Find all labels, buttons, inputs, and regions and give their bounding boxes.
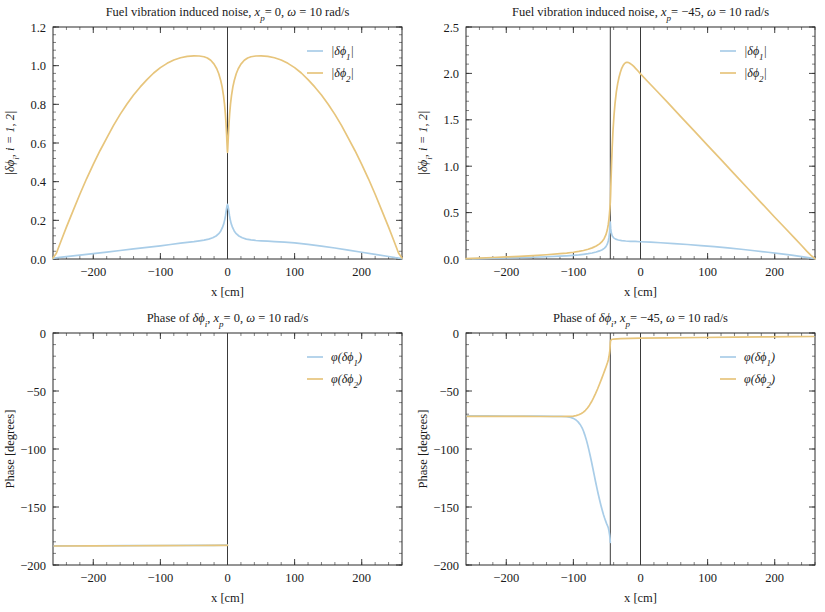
panel-bottom-right: Phase of δϕi, xp= −45, ω = 10 rad/s−200−… — [413, 306, 825, 612]
x-axis-label: x [cm] — [211, 285, 244, 299]
x-tick-label: 200 — [352, 265, 371, 279]
x-axis-label: x [cm] — [624, 591, 657, 605]
legend-label-1: φ(δϕ1) — [744, 350, 775, 368]
y-axis-label: |δϕi, i = 1, 2| — [416, 111, 434, 176]
plot-title: Phase of δϕi, xp= −45, ω = 10 rad/s — [553, 311, 728, 329]
legend-label-1: φ(δϕ1) — [331, 350, 362, 368]
y-tick-label: 0.2 — [30, 214, 46, 228]
y-tick-label: 1.2 — [30, 21, 46, 35]
panel-top-right: Fuel vibration induced noise, xp= −45, ω… — [413, 0, 825, 306]
x-tick-label: 100 — [698, 571, 717, 585]
y-tick-label: −200 — [433, 559, 459, 573]
x-tick-label: −200 — [493, 265, 519, 279]
legend-label-2: φ(δϕ2) — [744, 372, 775, 390]
plot-title: Fuel vibration induced noise, xp= −45, ω… — [512, 5, 769, 23]
x-tick-label: −200 — [493, 571, 519, 585]
y-tick-label: −50 — [439, 385, 459, 399]
legend-label-2: |δϕ2| — [744, 66, 767, 84]
plot-top-right: Fuel vibration induced noise, xp= −45, ω… — [413, 0, 825, 306]
plot-bottom-left: Phase of δϕi, xp= 0, ω = 10 rad/s−200−10… — [0, 306, 412, 612]
y-tick-label: 2.0 — [443, 67, 459, 81]
y-tick-label: 0.5 — [443, 206, 459, 220]
x-tick-label: −100 — [560, 265, 586, 279]
x-tick-label: −100 — [147, 265, 173, 279]
y-tick-label: 0 — [453, 327, 459, 341]
x-tick-label: 200 — [765, 265, 784, 279]
y-tick-label: 1.0 — [30, 59, 46, 73]
series-curve-2 — [54, 545, 227, 546]
x-tick-label: −100 — [560, 571, 586, 585]
x-tick-label: 100 — [285, 265, 304, 279]
x-axis-label: x [cm] — [624, 285, 657, 299]
figure-four-panel-plot-grid: Fuel vibration induced noise, xp= 0, ω =… — [0, 0, 825, 612]
x-tick-label: −100 — [147, 571, 173, 585]
plot-title: Phase of δϕi, xp= 0, ω = 10 rad/s — [147, 311, 309, 329]
y-tick-label: −150 — [433, 501, 459, 515]
legend-label-2: |δϕ2| — [331, 66, 354, 84]
y-tick-label: 1.5 — [443, 113, 459, 127]
plot-title: Fuel vibration induced noise, xp= 0, ω =… — [106, 5, 350, 23]
legend-label-2: φ(δϕ2) — [331, 372, 362, 390]
y-tick-label: 0 — [40, 327, 46, 341]
y-tick-label: 1.0 — [443, 160, 459, 174]
x-tick-label: 200 — [352, 571, 371, 585]
series-curve-1 — [467, 416, 610, 542]
legend-label-1: |δϕ1| — [331, 44, 354, 62]
x-tick-label: 100 — [285, 571, 304, 585]
y-tick-label: 0.0 — [443, 253, 459, 267]
panel-bottom-left: Phase of δϕi, xp= 0, ω = 10 rad/s−200−10… — [0, 306, 412, 612]
y-tick-label: −200 — [20, 559, 46, 573]
plot-bottom-right: Phase of δϕi, xp= −45, ω = 10 rad/s−200−… — [413, 306, 825, 612]
panel-top-left: Fuel vibration induced noise, xp= 0, ω =… — [0, 0, 412, 306]
y-tick-label: 0.4 — [30, 175, 46, 189]
x-tick-label: 200 — [765, 571, 784, 585]
y-tick-label: −100 — [433, 443, 459, 457]
y-axis-label: Phase [degrees] — [416, 410, 430, 489]
y-tick-label: 0.0 — [30, 253, 46, 267]
y-tick-label: −100 — [20, 443, 46, 457]
y-axis-label: Phase [degrees] — [3, 410, 17, 489]
x-tick-label: 100 — [698, 265, 717, 279]
x-tick-label: 0 — [224, 265, 230, 279]
y-axis-label: |δϕi, i = 1, 2| — [3, 111, 21, 176]
x-tick-label: −200 — [80, 265, 106, 279]
x-axis-label: x [cm] — [211, 591, 244, 605]
plot-top-left: Fuel vibration induced noise, xp= 0, ω =… — [0, 0, 412, 306]
x-tick-label: 0 — [637, 571, 643, 585]
x-tick-label: 0 — [637, 265, 643, 279]
x-tick-label: 0 — [224, 571, 230, 585]
y-tick-label: 0.8 — [30, 98, 46, 112]
y-tick-label: −50 — [26, 385, 46, 399]
y-tick-label: 0.6 — [30, 137, 46, 151]
y-tick-label: 2.5 — [443, 21, 459, 35]
y-tick-label: −150 — [20, 501, 46, 515]
x-tick-label: −200 — [80, 571, 106, 585]
legend-label-1: |δϕ1| — [744, 44, 767, 62]
